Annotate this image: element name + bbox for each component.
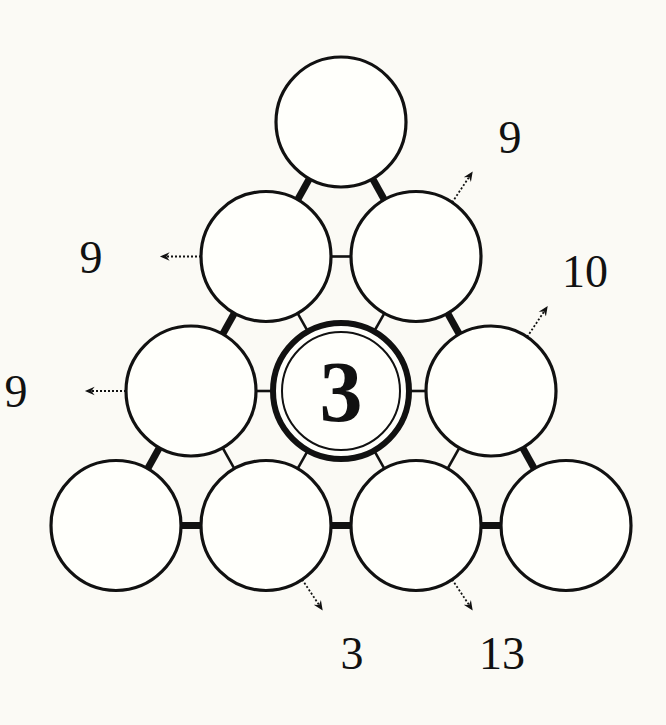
clue-arrow-down-right-icon — [452, 580, 472, 610]
clue-label-r3c3: 10 — [562, 246, 608, 297]
empty-cell-circle[interactable] — [426, 326, 556, 456]
pyramid-puzzle-board: 3 99109313 — [0, 0, 666, 725]
empty-cell-circle[interactable] — [501, 461, 631, 591]
cell-r4c3[interactable] — [351, 461, 481, 591]
clue-label-r3c1: 9 — [5, 366, 28, 417]
empty-cell-circle[interactable] — [51, 461, 181, 591]
connector-thick-r2c1-r3c1 — [222, 312, 236, 336]
clue-label-r4c3: 13 — [479, 628, 525, 679]
cell-r2c1[interactable] — [201, 192, 331, 322]
clue-label-r4c2: 3 — [341, 628, 364, 679]
connector-thin-r3c1-r4c2 — [222, 446, 236, 470]
connector-thick-r1c1-r2c2 — [372, 177, 386, 201]
empty-cell-circle[interactable] — [201, 461, 331, 591]
given-cell-value: 3 — [320, 344, 363, 440]
connector-thick-r3c3-r4c4 — [522, 446, 536, 470]
cell-r4c2[interactable] — [201, 461, 331, 591]
clue-arrow-down-right-icon — [302, 580, 322, 610]
empty-cell-circle[interactable] — [351, 192, 481, 322]
empty-cell-circle[interactable] — [201, 192, 331, 322]
cell-r4c1[interactable] — [51, 461, 181, 591]
cell-r3c3[interactable] — [426, 326, 556, 456]
connector-thick-r3c1-r4c1 — [147, 446, 161, 470]
connector-thin-r3c3-r4c3 — [447, 446, 461, 470]
cell-r4c4[interactable] — [501, 461, 631, 591]
clue-label-r2c2: 9 — [499, 112, 522, 163]
clue-arrow-up-right-icon — [527, 307, 547, 337]
clue-arrow-up-right-icon — [452, 173, 472, 203]
cell-r3c2: 3 — [273, 323, 409, 459]
empty-cell-circle[interactable] — [276, 57, 406, 187]
cell-r2c2[interactable] — [351, 192, 481, 322]
empty-cell-circle[interactable] — [351, 461, 481, 591]
empty-cell-circle[interactable] — [126, 326, 256, 456]
cells-layer: 3 — [51, 57, 631, 591]
cell-r1c1[interactable] — [276, 57, 406, 187]
connector-thick-r2c2-r3c3 — [447, 312, 461, 336]
clue-label-r2c1: 9 — [80, 232, 103, 283]
connector-thick-r1c1-r2c1 — [297, 177, 311, 201]
cell-r3c1[interactable] — [126, 326, 256, 456]
